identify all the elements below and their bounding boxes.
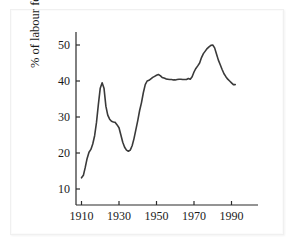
data-series-line: [82, 45, 236, 178]
y-tick-label: 40: [48, 75, 70, 87]
x-tick-label: 1990: [210, 210, 254, 222]
figure-root: % of labour force in a union 10203040501…: [0, 0, 294, 244]
y-tick-label: 50: [48, 39, 70, 51]
line-chart-plot: [0, 0, 294, 244]
y-axis-title: % of labour force in a union: [28, 0, 43, 68]
y-tick-label: 30: [48, 111, 70, 123]
y-tick-label: 20: [48, 147, 70, 159]
y-tick-label: 10: [48, 183, 70, 195]
